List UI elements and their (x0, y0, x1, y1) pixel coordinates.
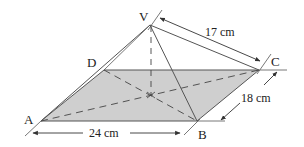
vertex-label-c: C (271, 54, 280, 69)
vertex-label-v: V (139, 9, 149, 24)
vertex-label-a: A (24, 112, 34, 127)
vertex-label-b: B (198, 127, 207, 142)
dim-label-vc: 17 cm (205, 25, 235, 39)
pyramid-diagram: 17 cm 18 cm 24 cm V D C A B (0, 0, 304, 147)
dim-arrow-bc-lower (221, 103, 240, 120)
vertex-label-d: D (87, 55, 96, 70)
dim-arrow-bc-upper (264, 72, 277, 85)
dim-label-ab: 24 cm (89, 126, 119, 140)
dim-tick-c (257, 54, 271, 74)
dim-label-bc: 18 cm (241, 91, 271, 105)
edge-vd (104, 25, 150, 70)
